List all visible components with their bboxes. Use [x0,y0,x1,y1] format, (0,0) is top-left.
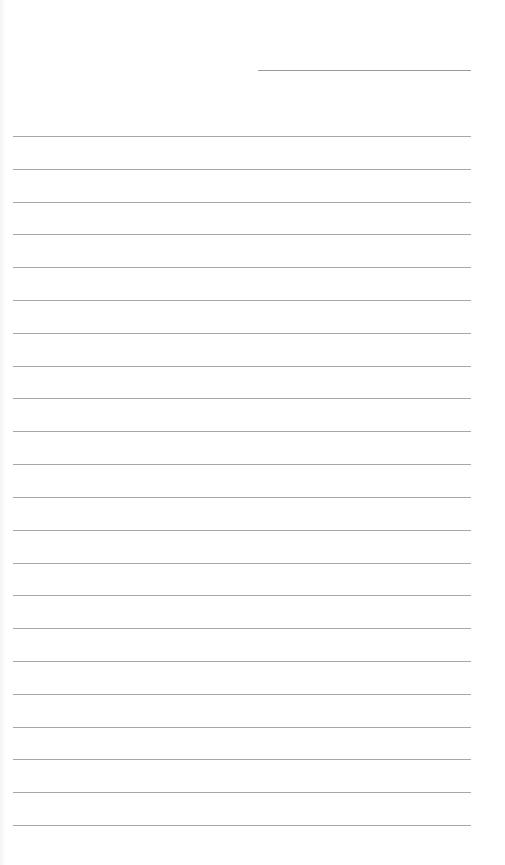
ruled-line [13,792,471,793]
ruled-line [13,595,471,596]
ruled-line [13,398,471,399]
page-edge-shadow [0,0,6,865]
ruled-line [13,759,471,760]
ruled-line [13,628,471,629]
ruled-line [13,530,471,531]
ruled-line [13,825,471,826]
ruled-line [13,333,471,334]
ruled-line [13,563,471,564]
ruled-line [13,431,471,432]
header-date-line [258,70,471,71]
ruled-line [13,366,471,367]
ruled-line [13,234,471,235]
ruled-line [13,464,471,465]
ruled-line [13,661,471,662]
ruled-line [13,300,471,301]
ruled-line [13,497,471,498]
ruled-line [13,267,471,268]
ruled-line [13,169,471,170]
ruled-line [13,727,471,728]
ruled-line [13,136,471,137]
ruled-line [13,202,471,203]
ruled-line [13,694,471,695]
